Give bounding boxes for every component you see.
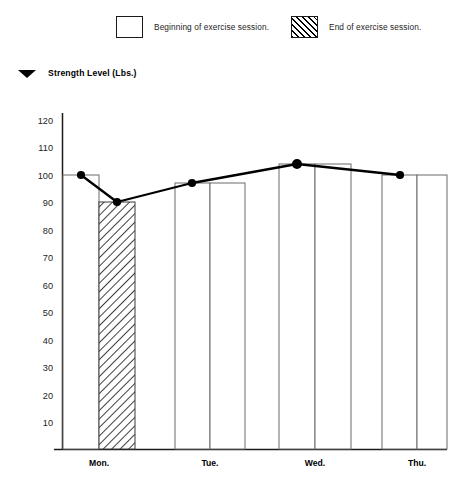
- x-tick-label-tue: Tue.: [201, 459, 218, 468]
- x-tick-label-mon: Mon.: [89, 459, 109, 468]
- x-axis-tick-labels: Mon. Tue. Wed. Thu.: [0, 0, 459, 492]
- x-tick-label-thu: Thu.: [408, 459, 426, 468]
- chart-figure: Beginning of exercise session. End of ex…: [0, 0, 459, 492]
- plot-area: 120 110 100 90 80 70 60 50 40 30 20 10: [0, 0, 459, 492]
- x-tick-label-wed: Wed.: [305, 459, 325, 468]
